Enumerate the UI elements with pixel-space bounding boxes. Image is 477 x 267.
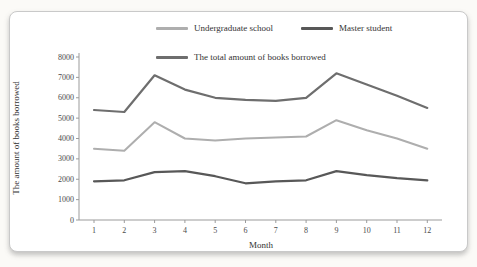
x-tick-label: 10 [363, 226, 371, 235]
x-tick-label: 1 [92, 226, 96, 235]
series-line-2 [94, 73, 427, 112]
x-tick-label: 4 [183, 226, 187, 235]
y-axis-title: The amount of books borrowed [11, 81, 21, 195]
series-line-0 [94, 120, 427, 151]
y-tick-label: 4000 [58, 134, 74, 143]
x-tick-label: 3 [153, 226, 157, 235]
x-tick-label: 12 [423, 226, 431, 235]
chart-series-lines [94, 73, 427, 183]
y-tick-label: 1000 [58, 195, 74, 204]
y-tick-label: 2000 [58, 175, 74, 184]
x-tick-label: 6 [244, 226, 248, 235]
x-tick-label: 2 [122, 226, 126, 235]
series-line-1 [94, 171, 427, 183]
y-tick-label: 8000 [58, 53, 74, 62]
y-tick-label: 0 [70, 216, 74, 225]
x-tick-label: 11 [393, 226, 401, 235]
x-tick-label: 7 [274, 226, 278, 235]
x-tick-label: 5 [213, 226, 217, 235]
y-tick-label: 7000 [58, 73, 74, 82]
y-tick-label: 3000 [58, 154, 74, 163]
chart-ticks: 0100020003000400050006000700080001234567… [58, 53, 431, 236]
y-tick-label: 5000 [58, 114, 74, 123]
chart-card: Undergraduate school Master student The … [9, 11, 468, 252]
x-axis-title: Month [249, 240, 274, 250]
x-tick-label: 9 [334, 226, 338, 235]
x-tick-label: 8 [304, 226, 308, 235]
y-tick-label: 6000 [58, 93, 74, 102]
line-chart: 0100020003000400050006000700080001234567… [10, 12, 469, 253]
